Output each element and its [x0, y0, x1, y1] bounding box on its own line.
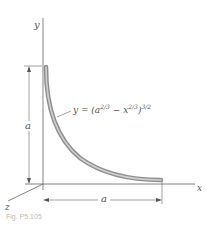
x-axis-label: x: [197, 184, 202, 193]
arrow-left-icon: [43, 198, 49, 202]
equation-exp2: 2/3: [128, 103, 138, 110]
z-axis-label: z: [5, 203, 10, 212]
equation-mid: − x: [110, 105, 128, 115]
equation-lhs: y = (a: [73, 105, 100, 115]
horizontal-dimension-label: a: [98, 194, 110, 204]
figure-caption: Fig. P5.105: [6, 213, 42, 220]
curve-equation: y = (a2/3 − x2/3)3/2: [73, 104, 151, 115]
vertical-dimension-label: a: [25, 121, 31, 131]
rod-highlight: [46, 67, 161, 180]
equation-leader: [57, 111, 71, 117]
rod-curve: [46, 67, 161, 180]
arrow-right-icon: [156, 198, 162, 202]
y-axis-label: y: [34, 20, 40, 30]
equation-exp3: 3/2: [141, 103, 151, 110]
arrow-down-icon: [27, 178, 31, 184]
arrow-up-icon: [27, 66, 31, 72]
equation-exp1: 2/3: [100, 103, 110, 110]
z-axis: [8, 184, 43, 201]
